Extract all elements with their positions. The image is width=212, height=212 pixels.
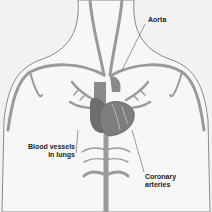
torso-illustration: [0, 0, 212, 212]
diagram-canvas: Aorta Blood vessels in lungs Coronary ar…: [0, 0, 212, 212]
label-blood-vessels-lungs: Blood vessels in lungs: [19, 143, 75, 159]
label-coronary-arteries: Coronary arteries: [145, 173, 176, 189]
label-line: in lungs: [19, 151, 75, 159]
label-line: Coronary: [145, 173, 176, 181]
label-aorta: Aorta: [148, 16, 166, 24]
label-line: Blood vessels: [19, 143, 75, 151]
label-line: arteries: [145, 181, 176, 189]
